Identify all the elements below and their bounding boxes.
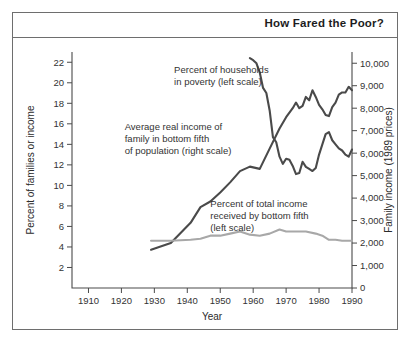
xtick-label: 1980 — [308, 295, 329, 306]
annotations-group: Percent of householdsin poverty (left sc… — [125, 64, 309, 233]
ytick-label-left: 14 — [53, 139, 64, 150]
xtick-label: 1970 — [276, 295, 297, 306]
ytick-label-right: 3,000 — [360, 215, 384, 226]
y2-axis-title: Family income (1989 prices) — [383, 107, 394, 233]
share-annotation: (left scale) — [210, 222, 254, 233]
figure-container: How Fared the Poor? 24681012141618202201… — [0, 0, 412, 355]
ytick-label-right: 2,000 — [360, 237, 384, 248]
xtick-label: 1990 — [341, 295, 362, 306]
ytick-label-left: 22 — [53, 57, 64, 68]
ytick-label-left: 20 — [53, 77, 64, 88]
ytick-label-left: 12 — [53, 159, 64, 170]
ytick-label-left: 6 — [59, 221, 64, 232]
ytick-label-right: 0 — [360, 282, 365, 293]
share-annotation: Percent of total income — [210, 198, 307, 209]
income-annotation: family in bottom fifth — [125, 133, 209, 144]
share-annotation: received by bottom fifth — [210, 210, 308, 221]
ytick-label-right: 10,000 — [360, 58, 389, 69]
ytick-label-left: 8 — [59, 200, 64, 211]
xtick-label: 1920 — [111, 295, 132, 306]
xtick-label: 1910 — [78, 295, 99, 306]
ytick-label-left: 16 — [53, 118, 64, 129]
ytick-label-right: 1,000 — [360, 260, 384, 271]
x-axis-title: Year — [202, 311, 223, 322]
xtick-label: 1960 — [243, 295, 264, 306]
ytick-label-left: 4 — [59, 241, 64, 252]
ytick-label-left: 2 — [59, 262, 64, 273]
ytick-label-left: 10 — [53, 180, 64, 191]
poverty-annotation: in poverty (left scale) — [174, 76, 262, 87]
poverty-annotation: Percent of households — [174, 64, 269, 75]
y-axis-title: Percent of families or income — [25, 105, 36, 234]
ytick-label-right: 8,000 — [360, 103, 384, 114]
ytick-label-left: 18 — [53, 98, 64, 109]
ytick-label-right: 4,000 — [360, 192, 384, 203]
chart-svg: 24681012141618202201,0002,0003,0004,0005… — [0, 0, 412, 355]
xtick-label: 1950 — [210, 295, 231, 306]
ytick-label-right: 6,000 — [360, 148, 384, 159]
xtick-label: 1940 — [177, 295, 198, 306]
axes-group: 24681012141618202201,0002,0003,0004,0005… — [53, 52, 389, 306]
xtick-label: 1930 — [144, 295, 165, 306]
income-annotation: Average real income of — [125, 121, 223, 132]
income-annotation: of population (right scale) — [125, 145, 232, 156]
ytick-label-right: 9,000 — [360, 80, 384, 91]
ytick-label-right: 5,000 — [360, 170, 384, 181]
ytick-label-right: 7,000 — [360, 125, 384, 136]
